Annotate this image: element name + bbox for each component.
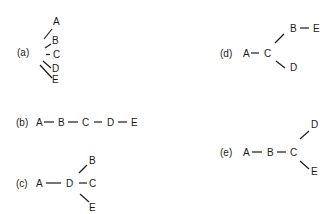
panel-c-bond-db — [79, 165, 87, 173]
panel-d-node-e: E — [313, 23, 320, 34]
molecular-structures-diagram: (a) A B C D E (b) A B C D E (c) A D C B … — [0, 0, 333, 214]
panel-c-node-a: A — [36, 178, 43, 189]
panel-e-bond-cd — [300, 131, 309, 139]
panel-a: (a) A B C D E — [17, 16, 60, 85]
panel-d-node-a: A — [243, 48, 250, 59]
panel-c-node-c: C — [89, 178, 96, 189]
panel-d-bond-cd — [276, 61, 285, 68]
panel-b: (b) A B C D E — [16, 117, 138, 128]
panel-d: (d) A C B E D — [220, 23, 320, 73]
panel-b-label: (b) — [16, 117, 28, 128]
panel-e-label: (e) — [220, 147, 232, 158]
panel-a-node-e: E — [52, 74, 59, 85]
panel-b-node-a: A — [36, 117, 43, 128]
panel-e-node-d: D — [311, 119, 318, 130]
panel-d-node-b: B — [290, 23, 297, 34]
panel-a-node-a: A — [53, 16, 60, 27]
panel-e-node-c: C — [290, 147, 297, 158]
panel-b-node-e: E — [131, 117, 138, 128]
panel-a-label: (a) — [17, 47, 29, 58]
panel-b-node-b: B — [58, 117, 65, 128]
panel-a-stroke-2 — [45, 44, 51, 48]
panel-a-node-c: C — [53, 49, 60, 60]
panel-b-node-d: D — [107, 117, 114, 128]
panel-b-node-c: C — [82, 117, 89, 128]
panel-c-node-b: B — [89, 155, 96, 166]
panel-a-stroke-4 — [43, 61, 51, 68]
panel-e-bond-ce — [300, 161, 309, 169]
panel-a-node-d: D — [52, 63, 59, 74]
panel-c-node-e: E — [89, 202, 96, 213]
panel-d-bond-cb — [275, 34, 284, 43]
panel-e-node-a: A — [243, 147, 250, 158]
panel-c-node-d: D — [66, 178, 73, 189]
panel-a-stroke-1 — [44, 29, 52, 39]
panel-e: (e) A B C D E — [220, 119, 318, 177]
panel-c-label: (c) — [16, 178, 28, 189]
panel-d-node-d: D — [290, 62, 297, 73]
panel-d-label: (d) — [220, 48, 232, 59]
panel-e-node-e: E — [311, 166, 318, 177]
panel-e-node-b: B — [267, 147, 274, 158]
panel-c-bond-de — [80, 194, 89, 202]
panel-d-node-c: C — [264, 48, 271, 59]
panel-a-node-b: B — [52, 35, 59, 46]
panel-c: (c) A D C B E — [16, 155, 96, 213]
